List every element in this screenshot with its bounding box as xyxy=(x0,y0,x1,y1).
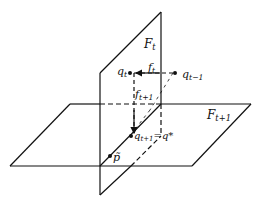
label-plane-ft: Ft xyxy=(144,38,156,52)
label-f-t1: ft+1 xyxy=(135,89,154,102)
point-p-tilde xyxy=(108,154,112,158)
label-q-t-minus-1: qt−1 xyxy=(182,69,203,82)
point-q-t-plus-1 xyxy=(129,134,133,138)
diagram-canvas: Ft Ft+1 qt qt−1 qt+1=q* p̃ ft ft+1 xyxy=(0,0,261,206)
label-p-tilde: p̃ xyxy=(113,152,120,163)
label-q-t: qt xyxy=(117,66,127,79)
label-plane-ft1: Ft+1 xyxy=(207,109,231,123)
point-q-t xyxy=(128,71,132,75)
diagram-svg xyxy=(0,0,261,206)
label-q-t-plus-1: qt+1=q* xyxy=(134,131,173,143)
point-q-t-minus-1 xyxy=(173,71,177,75)
label-f-t: ft xyxy=(148,62,155,75)
